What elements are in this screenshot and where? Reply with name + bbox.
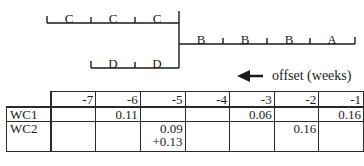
table-cell: 0.11 <box>96 107 141 122</box>
table-cell: 0.06 <box>230 107 275 122</box>
cell-value-line2: +0.13 <box>143 135 183 148</box>
table-row: WC1 0.11 0.06 0.16 <box>7 107 364 122</box>
segment-label-c3: C <box>153 12 162 25</box>
table-cell <box>230 122 275 152</box>
column-header: -3 <box>230 92 275 108</box>
offset-table: -7 -6 -5 -4 -3 -2 -1 WC1 0.11 0.06 0.16 … <box>6 91 364 152</box>
table-cell <box>274 107 319 122</box>
offset-axis-label: offset (weeks) <box>272 68 351 84</box>
row-label: WC1 <box>7 107 51 122</box>
timeline-diagram: C C C D D B B B A offset (weeks) <box>0 0 364 85</box>
segment-label-b1: B <box>197 33 206 46</box>
segment-label-c1: C <box>65 12 74 25</box>
segment-label-b2: B <box>241 33 250 46</box>
table-cell <box>319 122 364 152</box>
table-cell <box>140 107 185 122</box>
table-header-row: -7 -6 -5 -4 -3 -2 -1 <box>7 92 364 108</box>
segment-label-a: A <box>327 33 336 46</box>
table-cell <box>51 122 96 152</box>
column-header: -7 <box>51 92 96 108</box>
column-header: -1 <box>319 92 364 108</box>
table-cell <box>96 122 141 152</box>
table-cell <box>185 122 229 152</box>
column-header: -2 <box>274 92 319 108</box>
table-cell <box>51 107 96 122</box>
segment-label-b3: B <box>285 33 294 46</box>
column-header: -6 <box>96 92 141 108</box>
table-row: WC2 0.09 +0.13 0.16 <box>7 122 364 152</box>
left-arrow-icon <box>237 70 263 82</box>
column-header: -4 <box>185 92 229 108</box>
table-cell <box>185 107 229 122</box>
table-cell: 0.16 <box>319 107 364 122</box>
table-cell: 0.09 +0.13 <box>140 122 185 152</box>
table-cell: 0.16 <box>274 122 319 152</box>
segment-label-c2: C <box>109 12 118 25</box>
segment-label-d1: D <box>108 57 117 70</box>
row-label: WC2 <box>7 122 51 152</box>
segment-label-d2: D <box>152 57 161 70</box>
column-header: -5 <box>140 92 185 108</box>
table-corner <box>7 92 51 108</box>
